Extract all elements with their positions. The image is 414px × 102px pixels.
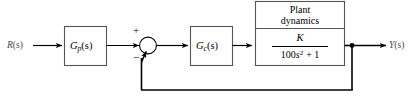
block-diagram-canvas: R(s) Gp(s) + − Gc(s) Plant dynamics K 10… — [0, 0, 414, 102]
input-signal-label: R(s) — [7, 41, 23, 51]
prefilter-base: G — [70, 40, 78, 51]
controller-arg: (s) — [207, 40, 218, 51]
summing-plus-sign: + — [133, 25, 139, 36]
output-signal-label: Y(s) — [389, 41, 404, 51]
prefilter-block-label: Gp(s) — [70, 41, 92, 53]
summing-minus-sign: − — [133, 52, 139, 63]
plant-title-line2: dynamics — [256, 16, 344, 26]
plant-title-line1: Plant — [256, 5, 344, 15]
denominator-tail: + 1 — [306, 49, 319, 60]
output-signal-arg: (s) — [394, 40, 404, 50]
denominator-coefficient: 100 — [281, 49, 296, 60]
controller-block-label: Gc(s) — [196, 41, 218, 53]
prefilter-arg: (s) — [81, 40, 92, 51]
transfer-function-numerator: K — [256, 33, 344, 44]
summing-junction-circle — [140, 37, 157, 54]
denominator-exponent: 2 — [300, 49, 304, 57]
transfer-function-denominator: 100s2+ 1 — [256, 50, 344, 60]
input-signal-arg: (s) — [13, 40, 23, 50]
controller-base: G — [196, 40, 204, 51]
